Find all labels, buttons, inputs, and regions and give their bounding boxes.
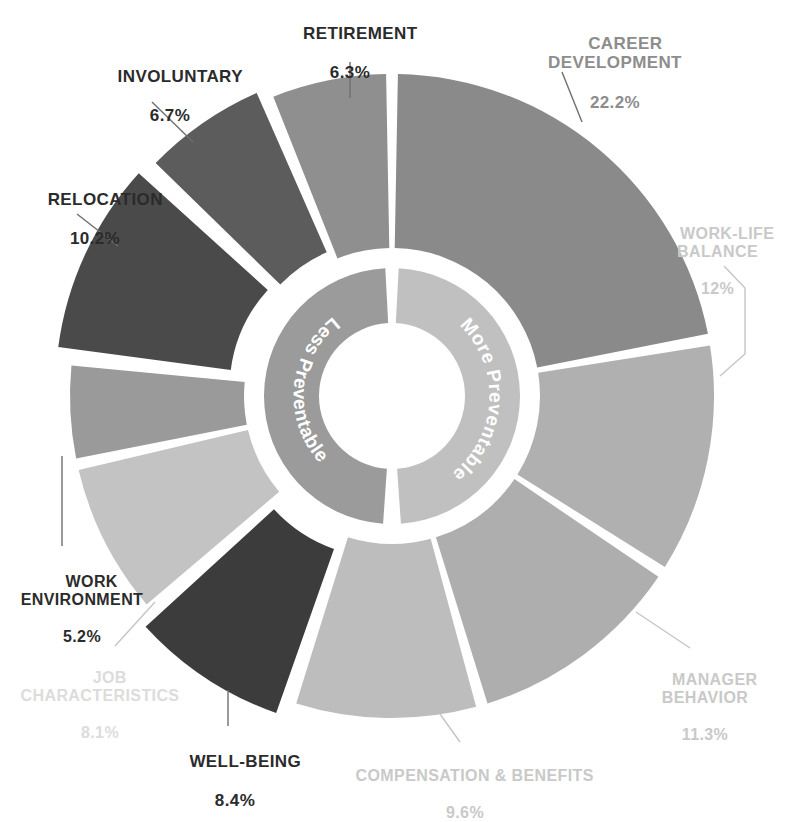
label-retirement-name: RETIREMENT — [303, 24, 418, 43]
label-manager-behavior: MANAGER BEHAVIOR 11.3% — [625, 652, 785, 782]
label-work-life-balance-name: WORK-LIFE BALANCE — [677, 225, 774, 261]
label-work-life-balance: WORK-LIFE BALANCE 12% — [640, 206, 795, 336]
label-involuntary-pct: 6.7% — [75, 106, 265, 126]
label-work-life-balance-pct: 12% — [640, 280, 795, 299]
label-relocation-name: RELOCATION — [48, 190, 163, 209]
label-retirement-pct: 6.3% — [265, 63, 435, 83]
label-well-being-name: WELL-BEING — [189, 752, 301, 771]
label-career-development-pct: 22.2% — [505, 93, 725, 113]
leader-line — [440, 714, 460, 742]
label-job-characteristics-name: JOB CHARACTERISTICS — [21, 669, 180, 705]
label-involuntary: INVOLUNTARY 6.7% — [75, 47, 265, 165]
label-compensation-benefits: COMPENSATION & BENEFITS 9.6% — [330, 748, 600, 822]
label-career-development-name: CAREER DEVELOPMENT — [548, 34, 682, 73]
label-retirement: RETIREMENT 6.3% — [265, 4, 435, 122]
label-compensation-benefits-name: COMPENSATION & BENEFITS — [356, 767, 594, 784]
label-well-being-pct: 8.4% — [145, 791, 325, 811]
label-career-development: CAREER DEVELOPMENT 22.2% — [505, 14, 725, 152]
label-work-environment-name: WORK ENVIRONMENT — [21, 573, 144, 609]
label-relocation-pct: 10.2% — [5, 229, 185, 249]
label-relocation: RELOCATION 10.2% — [5, 170, 185, 288]
label-manager-behavior-pct: 11.3% — [625, 726, 785, 745]
label-well-being: WELL-BEING 8.4% — [145, 732, 325, 822]
label-compensation-benefits-pct: 9.6% — [330, 804, 600, 822]
leader-line — [636, 612, 690, 648]
label-work-environment-pct: 5.2% — [2, 628, 162, 647]
label-involuntary-name: INVOLUNTARY — [118, 67, 243, 86]
inner-ring-segment-less[interactable] — [264, 268, 388, 524]
label-manager-behavior-name: MANAGER BEHAVIOR — [662, 671, 758, 707]
